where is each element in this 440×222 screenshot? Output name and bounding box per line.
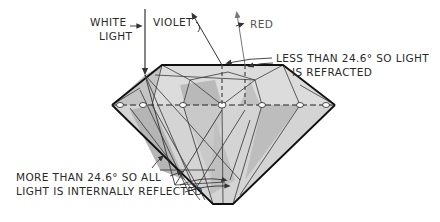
- label-red: RED: [250, 18, 273, 30]
- label-reflected-1: MORE THAN 24.6° SO ALL: [16, 171, 161, 183]
- violet-ray: [193, 15, 222, 65]
- label-reflected-2: LIGHT IS INTERNALLY REFLECTED: [16, 185, 203, 197]
- label-white-light-1: WHITE: [90, 16, 126, 28]
- red-ray: [237, 14, 245, 65]
- diamond-diagram: WHITE LIGHT VIOLET RED LESS THAN 24.6° S…: [0, 0, 440, 222]
- diamond-girdle: [112, 102, 335, 108]
- label-refracted-2: IS REFRACTED: [292, 66, 372, 78]
- label-refracted-1: LESS THAN 24.6° SO LIGHT: [276, 52, 429, 64]
- label-violet: VIOLET: [153, 16, 193, 28]
- label-white-light-2: LIGHT: [99, 30, 132, 42]
